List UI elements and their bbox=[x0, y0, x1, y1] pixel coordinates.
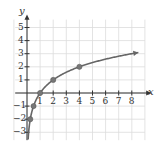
y-tick-label: −1 bbox=[13, 101, 26, 110]
data-point bbox=[31, 104, 36, 109]
y-axis-label: y bbox=[19, 6, 25, 16]
x-tick-label: 4 bbox=[76, 97, 82, 106]
x-tick-label: 8 bbox=[129, 97, 135, 106]
y-axis-arrow-icon bbox=[25, 14, 30, 19]
data-point bbox=[38, 90, 43, 95]
log-curve bbox=[28, 53, 138, 140]
data-point bbox=[77, 64, 82, 69]
y-tick-label: 2 bbox=[18, 62, 24, 71]
x-tick-label: 1 bbox=[37, 97, 43, 106]
data-point bbox=[28, 117, 33, 122]
x-tick-label: 2 bbox=[50, 97, 56, 106]
y-tick-label: 4 bbox=[18, 36, 24, 45]
data-point bbox=[51, 77, 56, 82]
x-tick-label: 5 bbox=[90, 97, 96, 106]
x-tick-label: 7 bbox=[116, 97, 122, 106]
y-tick-label: 5 bbox=[18, 23, 24, 32]
y-tick-label: −3 bbox=[13, 127, 26, 136]
y-tick-label: −2 bbox=[13, 114, 26, 123]
x-tick-label: 6 bbox=[103, 97, 109, 106]
x-tick-label: 3 bbox=[63, 97, 69, 106]
y-tick-label: 3 bbox=[18, 49, 24, 58]
y-tick-label: 1 bbox=[18, 75, 24, 84]
x-axis-label: x bbox=[148, 87, 154, 97]
